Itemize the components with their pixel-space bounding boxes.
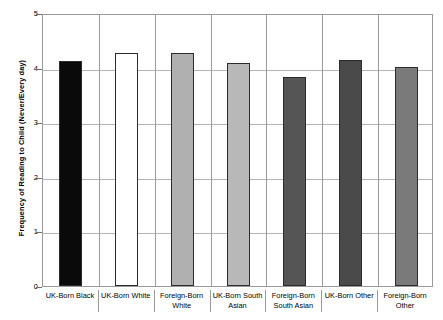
x-label-separator [265, 290, 266, 312]
category-separator [378, 15, 379, 286]
x-axis-category-label: UK-Born White [98, 289, 154, 301]
x-axis-category-label: Foreign-Born White [154, 289, 210, 311]
bar [115, 53, 138, 286]
x-axis-category-label: Foreign-Born South Asian [265, 289, 321, 311]
category-separator [155, 15, 156, 286]
bar [171, 53, 194, 286]
x-axis-category-labels: UK-Born BlackUK-Born WhiteForeign-Born W… [42, 289, 433, 320]
category-separator [211, 15, 212, 286]
x-axis-category-label: UK-Born Other [321, 289, 377, 301]
bar [283, 77, 306, 286]
y-axis-tick-labels: 543210 [24, 14, 38, 287]
x-axis-category-label: UK-Born Black [42, 289, 98, 301]
category-separator [266, 15, 267, 286]
y-axis-tick-mark [36, 287, 42, 288]
plot-area [42, 14, 433, 287]
bar [227, 63, 250, 286]
bar [339, 60, 362, 286]
bar [59, 61, 82, 286]
x-label-separator [98, 290, 99, 312]
x-label-separator [210, 290, 211, 312]
bar [395, 67, 418, 286]
x-axis-category-label: UK-Born South Asian [210, 289, 266, 311]
plot-inner [43, 15, 432, 286]
x-label-separator [377, 290, 378, 312]
category-separator [322, 15, 323, 286]
x-label-separator [321, 290, 322, 312]
x-axis-category-label: Foreign-Born Other [377, 289, 433, 311]
category-separator [99, 15, 100, 286]
bar-chart: Frequency of Reading to Child (Never/Eve… [0, 0, 443, 320]
x-label-separator [154, 290, 155, 312]
